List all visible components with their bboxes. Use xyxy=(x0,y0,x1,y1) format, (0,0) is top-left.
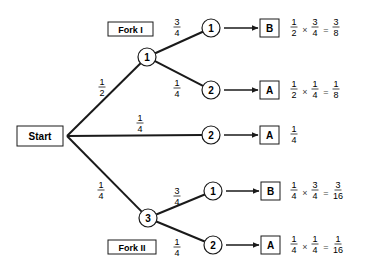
branch-probability: 14 xyxy=(98,180,105,201)
outcome-row: B12×34=38 xyxy=(224,17,340,38)
formula-fraction: 12 xyxy=(291,17,298,38)
formula-result: 316 xyxy=(333,180,343,201)
fraction-numerator: 1 xyxy=(174,237,179,247)
tree-edge xyxy=(156,221,204,241)
tree-node-fork3: 3 xyxy=(139,209,157,227)
outcome-box: B xyxy=(260,19,279,37)
formula-fraction: 14 xyxy=(291,234,298,255)
formula-fraction: 14 xyxy=(291,180,298,201)
fraction-numerator: 1 xyxy=(174,78,179,88)
tree-nodes: 1122312 xyxy=(138,19,222,254)
branch-probability: 14 xyxy=(137,113,144,134)
fraction-denominator: 4 xyxy=(174,197,179,207)
fraction-denominator: 16 xyxy=(333,245,343,255)
tree-node-fork1-out2: 2 xyxy=(202,81,220,99)
tree-edge xyxy=(156,194,204,214)
fraction-numerator: 3 xyxy=(312,17,317,27)
tree-edge xyxy=(67,136,142,212)
outcome-label: A xyxy=(267,240,274,251)
outcomes: B12×34=38A12×14=18A14B14×34=316A14×14=11… xyxy=(224,17,343,255)
equals-operator: = xyxy=(323,242,328,252)
node-label: 1 xyxy=(208,23,214,34)
formula-fraction: 14 xyxy=(312,234,319,255)
outcome-label: B xyxy=(266,23,273,34)
formula-fraction: 12 xyxy=(291,79,298,100)
formula-result: 116 xyxy=(333,234,343,255)
fraction-numerator: 1 xyxy=(291,79,296,89)
fraction-denominator: 4 xyxy=(98,191,103,201)
outcome-row: A14 xyxy=(224,124,298,145)
fraction-numerator: 1 xyxy=(335,234,340,244)
fraction-denominator: 2 xyxy=(291,28,296,38)
fraction-denominator: 4 xyxy=(174,89,179,99)
fraction-denominator: 8 xyxy=(333,90,338,100)
fraction-numerator: 1 xyxy=(291,124,296,134)
node-label: 2 xyxy=(208,85,214,96)
branch-probability: 14 xyxy=(174,237,181,258)
branch-probability: 34 xyxy=(174,17,181,38)
fraction-denominator: 4 xyxy=(174,28,179,38)
fraction-numerator: 3 xyxy=(333,17,338,27)
start-label: Start xyxy=(29,131,52,142)
start-box: Start xyxy=(17,126,63,146)
tree-node-mid-out2: 2 xyxy=(202,126,220,144)
tree-node-fork1-out1: 1 xyxy=(202,19,220,37)
fork-label: Fork I xyxy=(108,22,153,36)
tree-edge xyxy=(67,135,202,136)
start-node: Start xyxy=(17,126,63,146)
formula-fraction: 14 xyxy=(312,79,319,100)
fraction-denominator: 4 xyxy=(312,90,317,100)
fraction-denominator: 4 xyxy=(174,248,179,258)
fraction-denominator: 4 xyxy=(312,191,317,201)
fork-label: Fork II xyxy=(108,240,156,254)
fraction-numerator: 1 xyxy=(137,113,142,123)
tree-node-fork3-out2: 2 xyxy=(204,236,222,254)
fraction-denominator: 2 xyxy=(99,88,104,98)
outcome-label: A xyxy=(266,85,273,96)
fraction-numerator: 3 xyxy=(174,17,179,27)
node-label: 1 xyxy=(210,186,216,197)
tree-node-fork3-out1: 1 xyxy=(204,182,222,200)
outcome-row: A14×14=116 xyxy=(226,234,343,255)
branch-probability: 14 xyxy=(174,78,181,99)
tree-node-fork1: 1 xyxy=(138,48,156,66)
outcome-box: A xyxy=(261,236,280,254)
times-operator: × xyxy=(302,188,307,198)
node-label: 2 xyxy=(208,130,214,141)
fraction-numerator: 1 xyxy=(98,180,103,190)
fraction-numerator: 1 xyxy=(291,180,296,190)
formula-fraction: 34 xyxy=(312,180,319,201)
fraction-denominator: 4 xyxy=(291,191,296,201)
times-operator: × xyxy=(302,25,307,35)
fraction-denominator: 2 xyxy=(291,90,296,100)
formula-fraction: 14 xyxy=(291,124,298,145)
outcome-row: A12×14=18 xyxy=(224,79,340,100)
branch-probability: 34 xyxy=(174,186,181,207)
fraction-numerator: 3 xyxy=(312,180,317,190)
fraction-denominator: 4 xyxy=(312,28,317,38)
outcome-box: A xyxy=(260,81,279,99)
fraction-numerator: 1 xyxy=(312,79,317,89)
fraction-denominator: 8 xyxy=(333,28,338,38)
fraction-denominator: 4 xyxy=(291,135,296,145)
node-label: 1 xyxy=(144,52,150,63)
tree-edge xyxy=(67,63,141,136)
equals-operator: = xyxy=(323,87,328,97)
fraction-numerator: 1 xyxy=(291,234,296,244)
fork-text: Fork II xyxy=(118,243,145,253)
formula-result: 38 xyxy=(333,17,340,38)
probability-tree: 12141434143414 Start Fork IFork II 11223… xyxy=(0,0,366,277)
fraction-numerator: 1 xyxy=(333,79,338,89)
equals-operator: = xyxy=(323,25,328,35)
fraction-denominator: 4 xyxy=(312,245,317,255)
outcome-label: B xyxy=(267,186,274,197)
formula-fraction: 34 xyxy=(312,17,319,38)
fraction-numerator: 1 xyxy=(99,77,104,87)
fraction-numerator: 1 xyxy=(312,234,317,244)
formula-result: 18 xyxy=(333,79,340,100)
node-label: 2 xyxy=(210,240,216,251)
outcome-row: B14×34=316 xyxy=(226,180,343,201)
branch-probability: 12 xyxy=(99,77,106,98)
fraction-denominator: 4 xyxy=(291,245,296,255)
equals-operator: = xyxy=(323,188,328,198)
